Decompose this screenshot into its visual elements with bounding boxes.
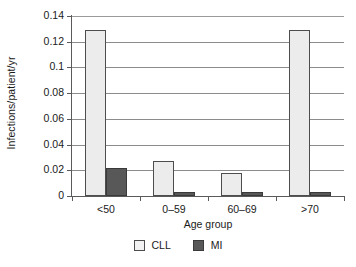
y-tick-label: 0.04 bbox=[24, 139, 64, 150]
legend-swatch-icon bbox=[193, 240, 204, 251]
chart-legend: CLLMI bbox=[0, 240, 356, 251]
legend-swatch-icon bbox=[134, 240, 145, 251]
y-axis-title-text: Infections/patient/yr bbox=[5, 56, 17, 149]
y-axis-title: Infections/patient/yr bbox=[0, 0, 22, 205]
x-tick-label-1: 0–59 bbox=[140, 203, 208, 215]
bar-cll-3 bbox=[289, 30, 310, 196]
x-tick-mark bbox=[276, 196, 277, 201]
y-tick-label: 0.14 bbox=[24, 10, 64, 21]
bar-mi-0 bbox=[106, 168, 127, 196]
gridline bbox=[72, 16, 344, 17]
y-tick-label: 0 bbox=[24, 190, 64, 201]
x-tick-mark bbox=[208, 196, 209, 201]
y-tick-label: 0.08 bbox=[24, 87, 64, 98]
legend-label: MI bbox=[211, 240, 223, 251]
legend-entry-mi[interactable]: MI bbox=[193, 240, 223, 251]
x-tick-label-3: >70 bbox=[276, 203, 344, 215]
bar-cll-2 bbox=[221, 173, 242, 196]
bar-mi-3 bbox=[310, 192, 331, 197]
x-tick-label-0: <50 bbox=[72, 203, 140, 215]
legend-label: CLL bbox=[152, 240, 171, 251]
bar-mi-2 bbox=[242, 192, 263, 197]
plot-area bbox=[72, 16, 344, 196]
x-tick-mark bbox=[140, 196, 141, 201]
bar-cll-0 bbox=[85, 30, 106, 196]
y-tick-label: 0.12 bbox=[24, 36, 64, 47]
legend-entry-cll[interactable]: CLL bbox=[134, 240, 171, 251]
y-tick-label: 0.02 bbox=[24, 164, 64, 175]
y-tick-label: 0.1 bbox=[24, 61, 64, 72]
bar-cll-1 bbox=[153, 161, 174, 196]
x-tick-label-2: 60–69 bbox=[208, 203, 276, 215]
x-tick-mark bbox=[344, 196, 345, 201]
x-axis-title: Age group bbox=[72, 218, 344, 230]
bar-chart-figure: Infections/patient/yr 00.020.040.060.080… bbox=[0, 0, 356, 267]
x-tick-mark bbox=[72, 196, 73, 201]
bar-mi-1 bbox=[174, 192, 195, 196]
y-tick-label: 0.06 bbox=[24, 113, 64, 124]
